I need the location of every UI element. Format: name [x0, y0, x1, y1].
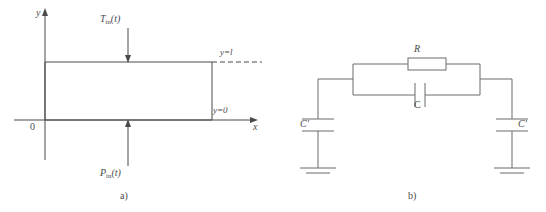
right-shunt-capacitor-label: C' — [518, 119, 527, 129]
boundary-top-label: y=l — [220, 48, 233, 57]
top-input-subscript: in — [106, 18, 111, 25]
panel-b-caption: b) — [408, 190, 416, 201]
bottom-input-argument: (t) — [111, 167, 120, 178]
top-input-symbol: T — [100, 13, 106, 24]
x-axis-label: x — [253, 122, 257, 132]
resistor-label: R — [414, 44, 420, 54]
top-input-label: Tin(t) — [100, 14, 120, 24]
panel-b-circuit-diagram: R C C' C' b) — [280, 0, 546, 212]
boundary-bottom-label: y=0 — [213, 106, 228, 115]
panel-a-drawing — [0, 0, 280, 212]
panel-a-domain-diagram: y x 0 Tin(t) Pin(t) y=l y=0 a) — [0, 0, 280, 212]
top-input-argument: (t) — [111, 13, 120, 24]
left-shunt-capacitor-label: C' — [300, 119, 309, 129]
series-capacitor-label: C — [414, 100, 421, 110]
panel-a-caption: a) — [120, 190, 128, 201]
resistor-body — [408, 58, 446, 70]
bottom-input-subscript: in — [106, 172, 111, 179]
figure-container: y x 0 Tin(t) Pin(t) y=l y=0 a) — [0, 0, 546, 212]
bottom-input-label: Pin(t) — [100, 168, 121, 178]
y-axis-arrowhead — [42, 8, 48, 16]
y-axis-label: y — [36, 8, 40, 18]
origin-label: 0 — [30, 122, 35, 132]
panel-b-drawing — [280, 0, 546, 212]
